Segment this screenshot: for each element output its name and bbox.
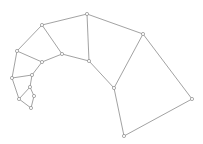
edge-C-J: [114, 34, 143, 88]
node-O: [29, 106, 32, 109]
edge-I-M: [12, 78, 19, 99]
edge-B-E: [42, 25, 62, 54]
node-P: [122, 134, 125, 137]
node-E: [60, 52, 63, 55]
node-C: [141, 32, 144, 35]
edge-A-B: [42, 14, 87, 25]
edge-C-N: [143, 34, 192, 99]
edge-D-F: [17, 51, 42, 62]
edges-layer: [12, 14, 192, 136]
node-F: [40, 60, 43, 63]
node-L: [32, 94, 35, 97]
node-B: [40, 23, 43, 26]
node-H: [30, 73, 33, 76]
node-G: [87, 59, 90, 62]
graph-diagram: [0, 0, 203, 144]
node-M: [17, 97, 20, 100]
edge-G-J: [89, 61, 114, 88]
edge-H-I: [12, 75, 32, 78]
edge-K-M: [19, 87, 30, 99]
node-A: [85, 12, 88, 15]
edge-B-D: [17, 25, 42, 51]
edge-E-G: [62, 54, 89, 61]
edge-N-P: [124, 99, 192, 136]
edge-F-H: [32, 62, 42, 75]
node-K: [28, 85, 31, 88]
edge-D-I: [12, 51, 17, 78]
edge-J-P: [114, 88, 124, 136]
edge-E-F: [42, 54, 62, 62]
node-D: [15, 49, 18, 52]
edge-A-G: [87, 14, 89, 61]
edge-M-O: [19, 99, 31, 108]
edge-A-C: [87, 14, 143, 34]
node-J: [112, 86, 115, 89]
node-I: [10, 76, 13, 79]
node-N: [190, 97, 193, 100]
